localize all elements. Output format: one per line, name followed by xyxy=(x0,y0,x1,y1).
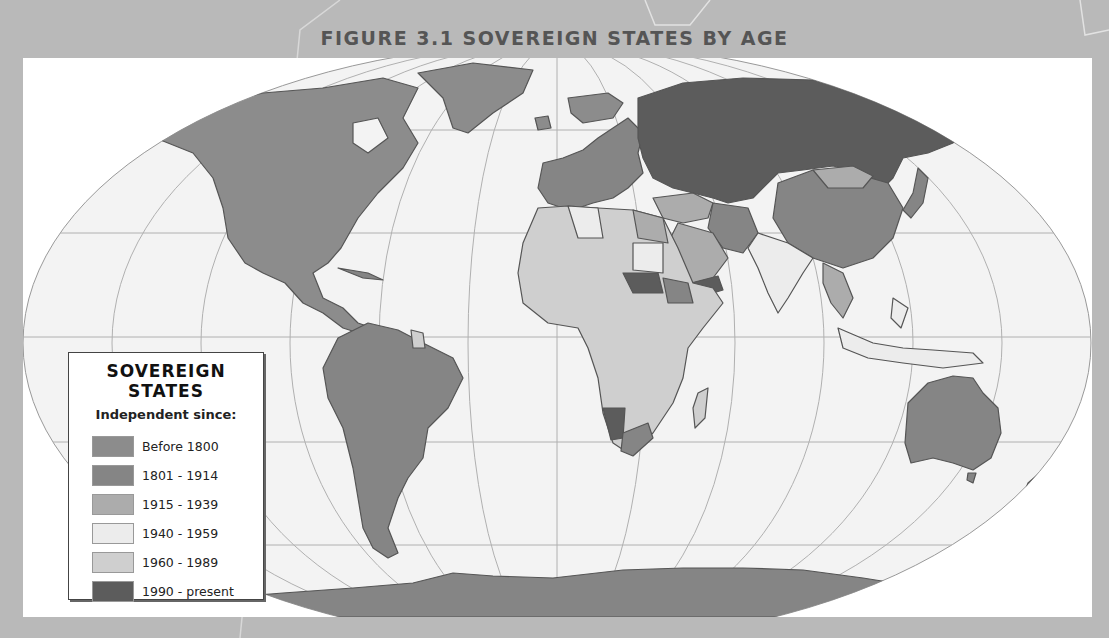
legend-label: 1915 - 1939 xyxy=(142,497,218,512)
legend-title: SOVEREIGN STATES xyxy=(75,361,257,401)
legend-swatch xyxy=(92,581,134,602)
legend-item-1915-1939: 1915 - 1939 xyxy=(75,490,257,519)
legend-label: Before 1800 xyxy=(142,439,219,454)
legend-item-1960-1989: 1960 - 1989 xyxy=(75,548,257,577)
map-frame: SOVEREIGN STATES Independent since: Befo… xyxy=(23,58,1092,617)
legend: SOVEREIGN STATES Independent since: Befo… xyxy=(68,352,264,600)
legend-label: 1940 - 1959 xyxy=(142,526,218,541)
legend-item-1990-present: 1990 - present xyxy=(75,577,257,606)
legend-swatch xyxy=(92,523,134,544)
figure-title: FIGURE 3.1 SOVEREIGN STATES BY AGE xyxy=(0,27,1109,49)
legend-item-1940-1959: 1940 - 1959 xyxy=(75,519,257,548)
legend-swatch xyxy=(92,436,134,457)
legend-swatch xyxy=(92,465,134,486)
legend-subtitle: Independent since: xyxy=(75,407,257,422)
legend-swatch xyxy=(92,552,134,573)
legend-label: 1960 - 1989 xyxy=(142,555,218,570)
legend-item-1801-1914: 1801 - 1914 xyxy=(75,461,257,490)
legend-item-before-1800: Before 1800 xyxy=(75,432,257,461)
legend-swatch xyxy=(92,494,134,515)
legend-label: 1990 - present xyxy=(142,584,234,599)
legend-label: 1801 - 1914 xyxy=(142,468,218,483)
